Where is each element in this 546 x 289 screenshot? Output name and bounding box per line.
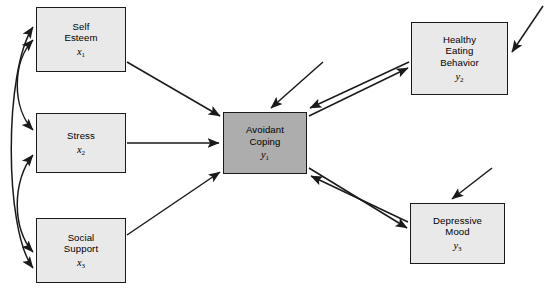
node-avoidant-coping-line-1: Avoidant: [246, 124, 284, 135]
node-healthy-eating-behavior-line-3: Behavior: [440, 57, 479, 68]
path-self-esteem-stress-covariance: [17, 40, 33, 130]
node-avoidant-coping[interactable]: Avoidant Coping y1: [223, 112, 307, 174]
path-disturbance-depressive-mood: [452, 168, 492, 199]
path-avoidant-coping-to-healthy-eating-behavior: [309, 68, 408, 116]
node-avoidant-coping-symbol-base: y: [261, 149, 266, 160]
path-healthy-eating-behavior-to-avoidant-coping: [310, 62, 409, 108]
node-avoidant-coping-symbol-sub: 1: [266, 154, 270, 162]
node-social-support[interactable]: Social Support x3: [36, 218, 126, 283]
path-depressive-mood-to-avoidant-coping: [311, 176, 408, 222]
node-self-esteem[interactable]: Self Esteem x1: [36, 7, 126, 72]
node-stress[interactable]: Stress x2: [36, 113, 126, 173]
path-social-support-to-avoidant-coping: [127, 172, 220, 235]
node-self-esteem-symbol-base: x: [77, 46, 82, 57]
node-self-esteem-line-2: Esteem: [64, 32, 97, 43]
node-depressive-mood[interactable]: Depressive Mood y3: [410, 203, 505, 264]
node-stress-line-1: Stress: [67, 130, 95, 141]
node-stress-symbol-base: x: [77, 144, 82, 155]
node-avoidant-coping-line-2: Coping: [249, 136, 280, 147]
node-healthy-eating-behavior[interactable]: Healthy Eating Behavior y2: [411, 22, 508, 95]
node-social-support-line-1: Social: [68, 232, 95, 243]
node-depressive-mood-line-2: Mood: [445, 226, 469, 237]
node-social-support-symbol-sub: 3: [82, 262, 86, 270]
path-disturbance-healthy-eating-behavior: [512, 6, 543, 52]
node-healthy-eating-behavior-line-2: Eating: [446, 45, 474, 56]
path-disturbance-avoidant-coping: [271, 62, 323, 108]
node-depressive-mood-symbol: y3: [453, 240, 461, 252]
node-self-esteem-symbol-sub: 1: [82, 51, 86, 59]
node-avoidant-coping-symbol: y1: [261, 149, 269, 161]
path-self-esteem-to-avoidant-coping: [127, 62, 220, 116]
node-stress-symbol: x2: [77, 144, 85, 156]
node-stress-symbol-sub: 2: [82, 149, 86, 157]
node-social-support-symbol-base: x: [77, 257, 82, 268]
node-healthy-eating-behavior-symbol-sub: 2: [460, 76, 464, 84]
node-healthy-eating-behavior-symbol: y2: [455, 71, 463, 83]
node-social-support-line-2: Support: [64, 243, 98, 254]
node-self-esteem-line-1: Self: [73, 21, 90, 32]
node-depressive-mood-line-1: Depressive: [433, 215, 482, 226]
node-social-support-symbol: x3: [77, 257, 85, 269]
node-self-esteem-symbol: x1: [77, 46, 85, 58]
node-depressive-mood-symbol-sub: 3: [458, 245, 462, 253]
node-healthy-eating-behavior-line-1: Healthy: [443, 34, 476, 45]
path-diagram: Self Esteem x1 Stress x2 Social Support …: [0, 0, 546, 289]
